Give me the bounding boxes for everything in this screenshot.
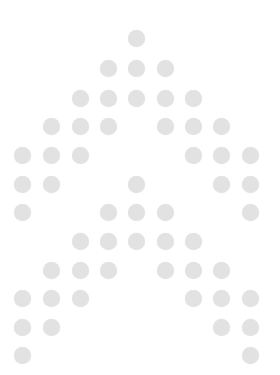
matrix-dot	[185, 147, 202, 164]
matrix-dot	[128, 176, 145, 193]
matrix-dot	[100, 233, 117, 250]
matrix-dot	[157, 90, 174, 107]
matrix-dot	[72, 90, 89, 107]
matrix-dot	[213, 176, 230, 193]
matrix-dot	[100, 60, 117, 77]
matrix-dot	[43, 118, 60, 135]
dot-matrix-canvas: Dot matrix chevron graphic Large upward-…	[0, 0, 280, 375]
matrix-dot	[185, 90, 202, 107]
matrix-dot	[128, 30, 145, 47]
matrix-dot	[100, 204, 117, 221]
matrix-dot	[242, 147, 259, 164]
matrix-dot	[43, 290, 60, 307]
matrix-dot	[14, 147, 31, 164]
matrix-dot	[72, 233, 89, 250]
matrix-dot	[14, 290, 31, 307]
matrix-dot	[242, 290, 259, 307]
matrix-dot	[157, 60, 174, 77]
matrix-dot	[213, 319, 230, 336]
matrix-dot	[242, 176, 259, 193]
matrix-dot	[213, 118, 230, 135]
matrix-dot	[213, 147, 230, 164]
matrix-dot	[14, 176, 31, 193]
matrix-dot	[242, 347, 259, 364]
matrix-dot	[213, 262, 230, 279]
matrix-dot	[100, 90, 117, 107]
matrix-dot	[157, 118, 174, 135]
matrix-dot	[213, 290, 230, 307]
matrix-dot	[100, 118, 117, 135]
matrix-dot	[14, 204, 31, 221]
matrix-dot	[242, 204, 259, 221]
matrix-dot	[14, 347, 31, 364]
matrix-dot	[72, 290, 89, 307]
matrix-dot	[43, 176, 60, 193]
matrix-dot	[128, 233, 145, 250]
matrix-dot	[72, 118, 89, 135]
matrix-dot	[128, 60, 145, 77]
matrix-dot	[185, 233, 202, 250]
matrix-dot	[43, 262, 60, 279]
matrix-dot	[43, 319, 60, 336]
matrix-dot	[242, 319, 259, 336]
matrix-dot	[157, 262, 174, 279]
matrix-dot	[128, 204, 145, 221]
matrix-dot	[185, 290, 202, 307]
matrix-dot	[14, 319, 31, 336]
matrix-dot	[185, 118, 202, 135]
matrix-dot	[157, 233, 174, 250]
matrix-dot	[100, 262, 117, 279]
matrix-dot	[72, 147, 89, 164]
matrix-dot	[72, 262, 89, 279]
matrix-dot	[43, 147, 60, 164]
matrix-dot	[185, 262, 202, 279]
matrix-dot	[157, 204, 174, 221]
matrix-dot	[128, 90, 145, 107]
